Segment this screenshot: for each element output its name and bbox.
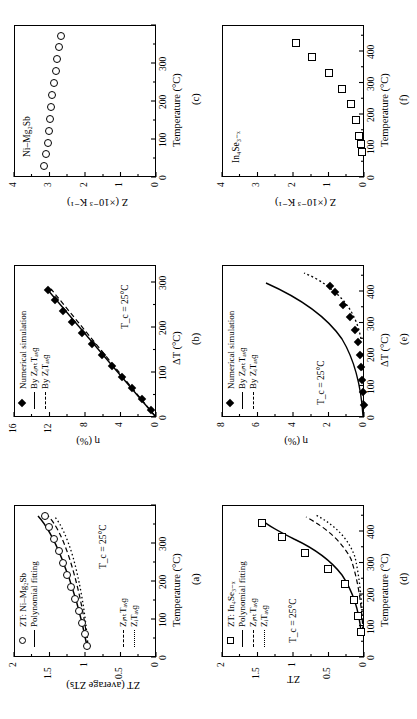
panel-f-xtick-100: 100 [366, 140, 376, 154]
data-point [341, 580, 349, 588]
panel-a-xtick-300: 300 [158, 537, 168, 551]
panel-b-xtick-100: 100 [158, 366, 168, 380]
panel-f-xtick-0: 0 [366, 175, 376, 180]
solid-line-icon [34, 630, 35, 647]
panel-a-ytick-15: 1.5 [43, 667, 53, 679]
dashed-line-icon [253, 392, 254, 409]
dashed-line-icon [253, 630, 254, 647]
data-point [258, 519, 266, 527]
panel-d-ytick-05: 0.5 [322, 667, 332, 679]
data-point [357, 140, 365, 148]
data-point [41, 512, 49, 520]
legend-label: ZᵢₙₜTₐᵥɡ [248, 598, 258, 627]
legend-label: ZT: Ni–Mg₂Sb [18, 573, 28, 627]
data-point [347, 100, 355, 108]
panel-d-letter: (d) [398, 573, 409, 585]
panel-e-xtick-300: 300 [366, 317, 376, 331]
data-point [354, 612, 362, 620]
panel-d-ytick-1: 1 [287, 662, 297, 667]
panel-c-xtick-300: 300 [158, 57, 168, 71]
dotted-line-icon [134, 630, 135, 647]
panel-f-ylabel: Z (×10⁻³ K⁻¹) [275, 197, 336, 209]
panel-b-xtick-0: 0 [158, 415, 168, 420]
panel-c-letter: (c) [190, 93, 201, 105]
panel-b-letter: (b) [190, 333, 201, 345]
panel-e-letter: (e) [398, 333, 409, 345]
data-point [358, 148, 366, 156]
panel-c-ytick-2: 2 [79, 182, 89, 187]
data-point [48, 91, 56, 99]
panel-e-xtick-400: 400 [366, 285, 376, 299]
legend-label: Numerical simulation [18, 311, 28, 389]
panel-a-ytick-1: 1 [79, 662, 89, 667]
data-point [47, 103, 55, 111]
data-point [308, 53, 316, 61]
panel-e-ylabel: η (%) [284, 436, 308, 447]
panel-e-ytick-6: 6 [251, 422, 261, 427]
panel-d-xtick-100: 100 [366, 620, 376, 634]
dashed-line-icon [123, 630, 124, 647]
legend-label: ZᵢₙₜTₐᵥɡ [118, 598, 128, 627]
data-point [52, 67, 60, 75]
panel-a-xlabel: Temperature (°C) [171, 553, 182, 627]
data-point [42, 150, 50, 158]
legend-label: By ZᵢₙₜTₐᵥɡ [29, 347, 39, 389]
data-point [59, 559, 67, 567]
data-point [75, 607, 83, 615]
panel-e: 0 100 200 300 400 0 2 4 6 8 ΔT (°C) η (%… [208, 239, 417, 479]
panel-e-ytick-0: 0 [358, 422, 368, 427]
panel-c-material: Ni–Mg₂Sb [22, 116, 32, 157]
figure-page: 0 100 200 300 0 0.5 1 1.5 2 Temperature … [0, 0, 417, 719]
data-point [55, 43, 63, 51]
panel-b-tc-note: T_c = 25°C [120, 284, 130, 329]
panel-e-tc-note: T_c = 25°C [316, 360, 326, 405]
data-point [71, 595, 79, 603]
legend-label: Numerical simulation [226, 311, 236, 389]
panel-a-ytick-05: 0.5 [114, 667, 124, 679]
panel-f-xtick-400: 400 [366, 45, 376, 59]
panel-f-ytick-4: 4 [216, 182, 226, 187]
data-point [324, 565, 332, 573]
legend-label: Polynomial fitting [29, 561, 39, 627]
panel-b-ytick-0: 0 [150, 422, 160, 427]
data-point [78, 619, 86, 627]
dotted-line-icon [264, 630, 265, 647]
data-point [45, 127, 53, 135]
data-point [81, 630, 89, 638]
panel-c: 0 100 200 300 0 1 2 3 4 Temperature (°C)… [0, 0, 208, 239]
panel-b-ytick-8: 8 [79, 422, 89, 427]
panel-f-xtick-200: 200 [366, 108, 376, 122]
panel-c-xtick-200: 200 [158, 95, 168, 109]
panel-d: 0 100 200 300 400 0 0.5 1 1.5 2 Temperat… [208, 479, 417, 719]
panel-f-xtick-300: 300 [366, 77, 376, 91]
panel-c-ytick-3: 3 [43, 182, 53, 187]
panel-d-ylabel: ZT [287, 674, 300, 685]
legend-label: ZᵢTₐᵥɡ [129, 605, 139, 627]
panel-d-xtick-0: 0 [366, 655, 376, 660]
panel-e-ytick-4: 4 [287, 422, 297, 427]
panel-d-tc-note: T_c = 25°C [288, 598, 298, 643]
data-point [50, 535, 58, 543]
panel-f-ytick-2: 2 [287, 182, 297, 187]
panel-a-xtick-0: 0 [158, 655, 168, 660]
panel-d-ytick-0: 0 [358, 662, 368, 667]
data-point [325, 69, 333, 77]
figure-canvas: 0 100 200 300 0 0.5 1 1.5 2 Temperature … [0, 0, 417, 719]
panel-b-xtick-300: 300 [158, 276, 168, 290]
data-point [278, 533, 286, 541]
panel-a: 0 100 200 300 0 0.5 1 1.5 2 Temperature … [0, 479, 208, 719]
solid-line-icon [242, 392, 243, 409]
panel-d-ytick-2: 2 [216, 662, 226, 667]
data-point [57, 32, 65, 40]
data-point [357, 628, 365, 636]
data-point [350, 596, 358, 604]
data-point [67, 583, 75, 591]
data-point [55, 547, 63, 555]
panel-a-tc-note: T_c = 25°C [98, 524, 108, 569]
panel-a-ylabel: ZT (average ZTs) [66, 680, 140, 691]
data-point [338, 85, 346, 93]
open-circle-icon [19, 637, 26, 644]
legend-label: ZT: In₄Se₃₋ₓ [226, 581, 236, 627]
panel-b-xtick-200: 200 [158, 321, 168, 335]
panel-c-ytick-0: 0 [150, 182, 160, 187]
